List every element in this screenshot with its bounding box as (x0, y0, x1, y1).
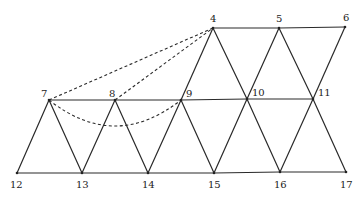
vertex-label-14: 14 (142, 179, 155, 190)
vertex-11 (312, 98, 315, 101)
edge-10-16 (247, 99, 280, 172)
dashed-curve-7-9 (49, 100, 181, 126)
vertex-label-10: 10 (252, 87, 265, 98)
vertex-8 (114, 99, 117, 102)
vertex-label-7: 7 (41, 88, 47, 99)
vertex-12 (16, 172, 19, 175)
vertex-6 (344, 26, 347, 29)
dashed-edges (49, 28, 213, 126)
vertex-13 (81, 172, 84, 175)
edge-7-13 (49, 100, 82, 173)
graph-diagram: 4567891011121314151617 (0, 0, 361, 206)
vertex-label-5: 5 (276, 13, 282, 24)
edge-5-11 (279, 28, 313, 99)
vertex-16 (279, 171, 282, 174)
vertex-label-11: 11 (318, 87, 331, 98)
vertex-label-13: 13 (76, 179, 89, 190)
vertex-label-6: 6 (343, 12, 349, 23)
vertex-15 (213, 172, 216, 175)
vertex-7 (48, 99, 51, 102)
vertex-10 (246, 98, 249, 101)
vertex-14 (147, 172, 150, 175)
edge-9-14 (148, 100, 181, 173)
vertex-label-8: 8 (109, 88, 115, 99)
vertex-label-15: 15 (208, 179, 221, 190)
vertex-label-16: 16 (274, 179, 287, 190)
edge-7-12 (17, 100, 49, 173)
edge-8-14 (115, 100, 148, 173)
vertex-4 (212, 27, 215, 30)
vertex-label-9: 9 (186, 88, 192, 99)
edge-8-13 (82, 100, 115, 173)
vertex-5 (278, 27, 281, 30)
edge-11-17 (313, 99, 346, 172)
edge-10-15 (214, 99, 247, 173)
vertex-label-12: 12 (10, 179, 23, 190)
vertex-17 (345, 171, 348, 174)
edge-4-10 (213, 28, 247, 99)
edge-9-10 (181, 99, 247, 100)
vertex-9 (180, 99, 183, 102)
edge-11-16 (280, 99, 313, 172)
edge-5-6 (279, 27, 345, 28)
vertex-label-17: 17 (340, 179, 353, 190)
edge-15-16 (214, 172, 280, 173)
edge-9-15 (181, 100, 214, 173)
vertex-label-4: 4 (210, 13, 216, 24)
